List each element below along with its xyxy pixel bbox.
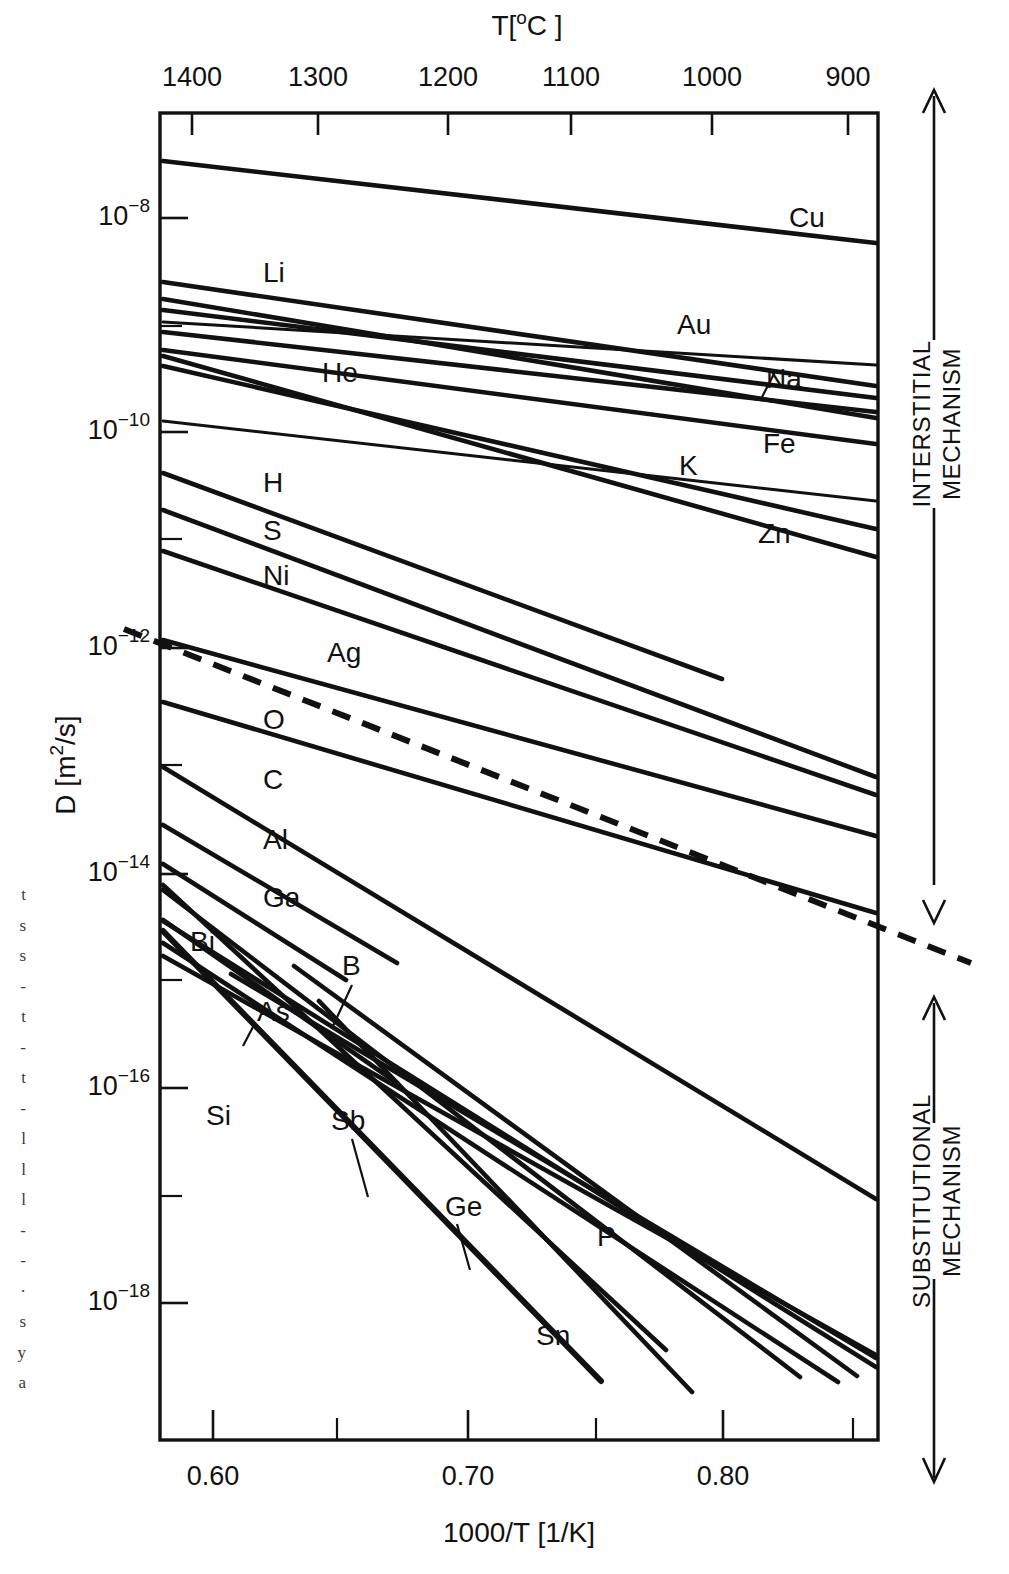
diffusion-arrhenius-figure: 1400 1300 1200 1100 1000 900 T[oC ] 0.60…	[0, 0, 1009, 1574]
series-label-Ge: Ge	[445, 1191, 482, 1222]
top-tick-label-1300: 1300	[288, 62, 348, 92]
series-label-Sb: Sb	[331, 1105, 365, 1136]
top-tick-label-1000: 1000	[682, 62, 742, 92]
left-axis: 10−8 10−10 10−12 10−14 10−16 10−18 D [m2…	[46, 195, 188, 1316]
y-axis-title: D [m2/s]	[46, 715, 81, 814]
substitutional-label-line1: SUBSTITUTIONAL	[908, 1094, 935, 1308]
curve-sub-d	[231, 974, 876, 1358]
series-label-S: S	[263, 515, 282, 546]
series-label-Bi: Bi	[190, 926, 215, 957]
series-label-He: He	[322, 357, 358, 388]
interstitial-label-line1: INTERSTITIAL	[908, 340, 935, 507]
y-tick-label-1e-16: 10−16	[88, 1065, 150, 1101]
top-axis: 1400 1300 1200 1100 1000 900 T[oC ]	[162, 7, 871, 135]
y-tick-label-1e-8: 10−8	[98, 195, 150, 231]
chart-svg: 1400 1300 1200 1100 1000 900 T[oC ] 0.60…	[0, 0, 1009, 1574]
series-label-O: O	[263, 704, 285, 735]
bottom-axis-ticks	[213, 1410, 853, 1440]
substitutional-mechanism-annotation: SUBSTITUTIONAL MECHANISM	[908, 997, 965, 1482]
series-label-As: As	[257, 996, 290, 1027]
series-label-Li: Li	[263, 257, 285, 288]
top-axis-title: T[oC ]	[491, 7, 562, 41]
bottom-axis-title: 1000/T [1/K]	[443, 1517, 595, 1548]
series-label-Sn: Sn	[536, 1320, 570, 1351]
bottom-tick-label-080: 0.80	[697, 1461, 750, 1491]
series-label-Al: Al	[263, 824, 288, 855]
top-tick-label-1200: 1200	[418, 62, 478, 92]
left-axis-ticks	[160, 218, 188, 1303]
interstitial-label-line2: MECHANISM	[938, 348, 965, 500]
series-label-Ni: Ni	[263, 560, 289, 591]
series-label-Cu: Cu	[789, 202, 825, 233]
series-label-B: B	[342, 950, 361, 981]
curve-Cu	[163, 161, 876, 243]
top-tick-label-1400: 1400	[162, 62, 222, 92]
bottom-axis: 0.60 0.70 0.80 1000/T [1/K]	[187, 1410, 853, 1548]
series-label-Fe: Fe	[763, 428, 796, 459]
y-tick-label-1e-12: 10−12	[88, 625, 150, 661]
mechanism-separator-dashed-line	[124, 629, 971, 963]
top-tick-label-900: 900	[825, 62, 870, 92]
y-tick-label-1e-18: 10−18	[88, 1280, 150, 1316]
interstitial-arrow-head-down	[923, 900, 945, 923]
bottom-tick-label-060: 0.60	[187, 1461, 240, 1491]
leader-As	[243, 1025, 254, 1046]
interstitial-mechanism-annotation: INTERSTITIAL MECHANISM	[908, 90, 965, 923]
series-label-Ga: Ga	[263, 882, 301, 913]
substitutional-label-line2: MECHANISM	[938, 1125, 965, 1277]
series-label-Ag: Ag	[327, 637, 361, 668]
series-label-Zn: Zn	[758, 518, 791, 549]
series-label-Au: Au	[677, 309, 711, 340]
series-label-H: H	[263, 467, 283, 498]
curve-B	[163, 885, 666, 1350]
y-tick-label-1e-10: 10−10	[88, 409, 150, 445]
series-label-C: C	[263, 764, 283, 795]
top-tick-label-1100: 1100	[542, 62, 600, 92]
leader-Sb	[352, 1139, 368, 1197]
series-label-Si: Si	[206, 1100, 231, 1131]
y-tick-label-1e-14: 10−14	[88, 851, 151, 887]
series-labels: Cu Li Au He Na Fe H K Zn S Ni Ag O C Al …	[190, 202, 825, 1351]
curve-Sb	[294, 966, 857, 1376]
series-label-K: K	[679, 450, 698, 481]
series-label-P: P	[597, 1221, 616, 1252]
bottom-tick-label-070: 0.70	[442, 1461, 495, 1491]
top-axis-ticks	[192, 113, 848, 135]
